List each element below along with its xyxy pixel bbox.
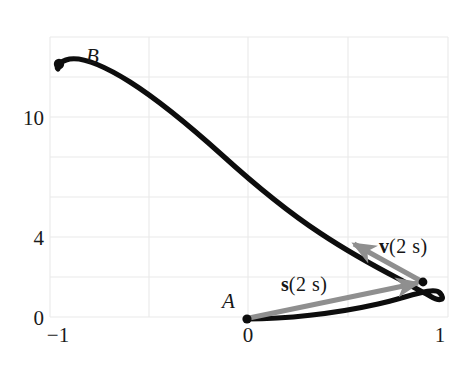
- y-tick-0: 0: [34, 308, 45, 329]
- markers: [54, 59, 428, 324]
- plot-canvas: [0, 0, 472, 367]
- curve: [57, 59, 442, 319]
- vector-label-s-symbol: s: [281, 273, 289, 295]
- vector-label-v: v(2 s): [379, 236, 428, 256]
- x-tick-0: 0: [243, 325, 254, 346]
- marker-point-b[interactable]: [54, 59, 64, 69]
- y-tick-4: 4: [34, 228, 45, 249]
- trajectory-figure: 10 4 0 −1 0 1 B A s(2 s) v(2 s): [0, 0, 472, 367]
- vector-label-s-arg: (2 s): [289, 273, 328, 295]
- vector-label-s: s(2 s): [281, 274, 327, 294]
- vector-label-v-symbol: v: [379, 235, 389, 257]
- point-label-b: B: [86, 46, 99, 67]
- point-label-a: A: [222, 291, 235, 312]
- y-tick-10: 10: [23, 108, 44, 129]
- x-tick-1: 1: [435, 325, 446, 346]
- marker-point-t2s[interactable]: [419, 278, 428, 287]
- vector-label-v-arg: (2 s): [389, 235, 428, 257]
- x-tick-neg1: −1: [47, 325, 69, 346]
